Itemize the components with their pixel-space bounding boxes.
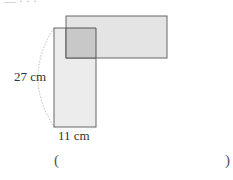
width-label: 11 cm [58, 129, 90, 142]
height-label: 27 cm [14, 70, 46, 83]
overlap-region [66, 28, 96, 58]
answer-open-paren: ( [54, 153, 59, 168]
answer-close-paren: ) [225, 153, 230, 168]
answer-blank[interactable] [70, 155, 220, 171]
l-shape-figure [0, 0, 233, 180]
